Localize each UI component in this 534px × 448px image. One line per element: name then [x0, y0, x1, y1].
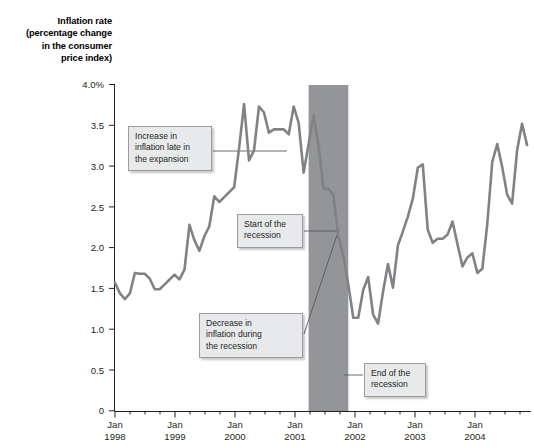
y-tick-label-3.5: 3.5 — [68, 120, 104, 131]
x-tick-year-1998: 1998 — [93, 431, 137, 443]
y-axis-title-line-4: price index) — [0, 52, 112, 64]
x-tick-month-1998: Jan — [93, 419, 137, 431]
y-axis-ticks — [109, 85, 115, 411]
x-tick-month-2004: Jan — [453, 419, 497, 431]
y-tick-label-0: 0 — [68, 405, 104, 416]
x-tick-label-1998: Jan 1998 — [93, 419, 137, 442]
annotation-callout-end: End of the recession — [364, 363, 426, 397]
annotation-callout-increase: Increase in inflation late in the expans… — [128, 126, 212, 171]
x-tick-year-2001: 2001 — [273, 431, 317, 443]
x-tick-label-2004: Jan 2004 — [453, 419, 497, 442]
inflation-rate-chart-figure: Inflation rate (percentage change in the… — [0, 0, 534, 448]
y-tick-label-3.0: 3.0 — [68, 161, 104, 172]
x-tick-month-2003: Jan — [393, 419, 437, 431]
x-tick-label-2003: Jan 2003 — [393, 419, 437, 442]
x-tick-year-1999: 1999 — [153, 431, 197, 443]
annotation-callout-decrease: Decrease in inflation during the recessi… — [199, 313, 303, 358]
x-tick-year-2004: 2004 — [453, 431, 497, 443]
y-axis-title-line-1: Inflation rate — [0, 15, 112, 27]
y-tick-label-1.5: 1.5 — [68, 283, 104, 294]
annotation-callout-start: Start of the recession — [237, 214, 303, 248]
y-tick-label-1.0: 1.0 — [68, 324, 104, 335]
x-axis-major-ticks — [115, 412, 475, 418]
x-tick-month-2000: Jan — [213, 419, 257, 431]
y-axis-title: Inflation rate (percentage change in the… — [0, 15, 112, 65]
x-tick-label-2001: Jan 2001 — [273, 419, 317, 442]
x-tick-year-2002: 2002 — [333, 431, 377, 443]
x-tick-label-2002: Jan 2002 — [333, 419, 377, 442]
x-tick-month-2002: Jan — [333, 419, 377, 431]
x-tick-month-2001: Jan — [273, 419, 317, 431]
x-tick-month-1999: Jan — [153, 419, 197, 431]
y-tick-label-2.0: 2.0 — [68, 242, 104, 253]
y-tick-label-2.5: 2.5 — [68, 202, 104, 213]
y-axis-title-line-2: (percentage change — [0, 27, 112, 39]
y-tick-label-4.0: 4.0% — [68, 79, 104, 90]
x-tick-year-2000: 2000 — [213, 431, 257, 443]
x-tick-label-1999: Jan 1999 — [153, 419, 197, 442]
y-axis-title-line-3: in the consumer — [0, 40, 112, 52]
x-tick-year-2003: 2003 — [393, 431, 437, 443]
y-tick-label-0.5: 0.5 — [68, 365, 104, 376]
x-tick-label-2000: Jan 2000 — [213, 419, 257, 442]
